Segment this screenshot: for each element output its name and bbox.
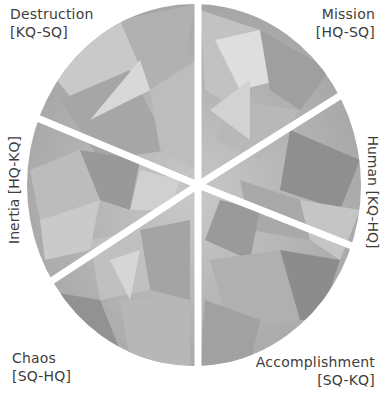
- label-mission: Mission [HQ-SQ]: [316, 5, 375, 41]
- crystal-texture: [0, 0, 387, 399]
- label-chaos-code: [SQ-HQ]: [12, 367, 71, 385]
- label-accomplishment: Accomplishment [SQ-KQ]: [256, 353, 375, 389]
- label-destruction: Destruction [KQ-SQ]: [10, 5, 94, 41]
- label-destruction-name: Destruction: [10, 5, 94, 23]
- label-human: Human [KQ-HQ]: [362, 102, 384, 282]
- label-accomplishment-name: Accomplishment: [256, 353, 375, 371]
- label-inertia: Inertia [HQ-KQ]: [3, 100, 25, 280]
- label-mission-code: [HQ-SQ]: [316, 23, 375, 41]
- label-accomplishment-code: [SQ-KQ]: [256, 371, 375, 389]
- label-inertia-text: Inertia [HQ-KQ]: [6, 136, 22, 244]
- label-mission-name: Mission: [316, 5, 375, 23]
- label-human-text: Human [KQ-HQ]: [365, 135, 381, 248]
- segmented-crystal-ellipse: [0, 0, 387, 399]
- label-chaos: Chaos [SQ-HQ]: [12, 349, 71, 385]
- label-destruction-code: [KQ-SQ]: [10, 23, 94, 41]
- label-chaos-name: Chaos: [12, 349, 71, 367]
